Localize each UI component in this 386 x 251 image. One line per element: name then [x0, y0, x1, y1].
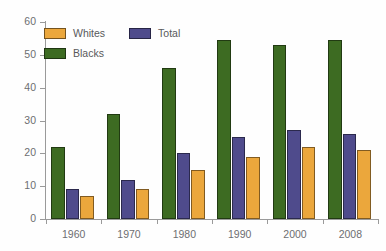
bar-group-1990 — [217, 22, 260, 219]
x-tick-mark-origin — [46, 219, 47, 224]
bar-blacks-2008 — [328, 40, 342, 219]
x-axis-label-1970: 1970 — [101, 228, 156, 240]
bar-chart: 0102030405060 196019701980199020002008 W… — [0, 0, 386, 251]
bar-blacks-2000 — [273, 45, 287, 219]
y-tick-label: 60 — [24, 15, 36, 27]
bar-blacks-1960 — [51, 147, 65, 219]
legend-swatch-whites — [44, 28, 66, 39]
legend-swatch-total — [129, 28, 151, 39]
x-tick-mark — [378, 219, 379, 224]
legend-row-bottom: Blacks — [44, 46, 204, 60]
bar-whites-1970 — [136, 189, 150, 219]
legend-item-total: Total — [129, 27, 180, 39]
y-tick-label: 50 — [24, 48, 36, 60]
x-axis-label-1960: 1960 — [46, 228, 101, 240]
legend-label-whites: Whites — [73, 27, 105, 39]
bar-blacks-1980 — [162, 68, 176, 219]
x-tick-mark — [101, 219, 102, 224]
chart-legend: Whites Total Blacks — [44, 26, 204, 66]
x-tick-mark — [323, 219, 324, 224]
legend-item-blacks: Blacks — [44, 47, 104, 59]
x-axis-label-1980: 1980 — [157, 228, 212, 240]
y-tick-label: 0 — [30, 212, 36, 224]
bar-whites-2008 — [357, 150, 371, 219]
bar-total-1970 — [121, 180, 135, 219]
bar-whites-1980 — [191, 170, 205, 219]
legend-item-whites: Whites — [44, 27, 105, 39]
x-axis-label-2008: 2008 — [323, 228, 378, 240]
legend-label-total: Total — [158, 27, 180, 39]
y-tick-label: 10 — [24, 179, 36, 191]
y-tick-label: 40 — [24, 81, 36, 93]
bar-whites-2000 — [302, 147, 316, 219]
bar-total-2000 — [287, 130, 301, 219]
x-tick-mark — [157, 219, 158, 224]
legend-row-top: Whites Total — [44, 26, 204, 40]
bar-whites-1960 — [80, 196, 94, 219]
bar-group-2000 — [273, 22, 316, 219]
y-tick-label: 20 — [24, 146, 36, 158]
x-tick-mark — [267, 219, 268, 224]
y-tick-label: 30 — [24, 114, 36, 126]
bar-whites-1990 — [246, 157, 260, 219]
bar-total-1990 — [232, 137, 246, 219]
bar-total-2008 — [343, 134, 357, 219]
x-axis-label-2000: 2000 — [267, 228, 322, 240]
bar-total-1980 — [177, 153, 191, 219]
bar-total-1960 — [66, 189, 80, 219]
bar-blacks-1990 — [217, 40, 231, 219]
bar-blacks-1970 — [107, 114, 121, 219]
legend-swatch-blacks — [44, 48, 66, 59]
legend-label-blacks: Blacks — [73, 47, 104, 59]
x-tick-mark — [212, 219, 213, 224]
bar-group-2008 — [328, 22, 371, 219]
x-axis-label-1990: 1990 — [212, 228, 267, 240]
